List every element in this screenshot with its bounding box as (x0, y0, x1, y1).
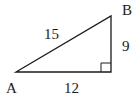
side-label-vertical: 9 (122, 38, 130, 54)
vertex-label-a: A (6, 80, 17, 96)
triangle-diagram: A B 15 9 12 (0, 0, 140, 99)
right-angle-marker (101, 63, 111, 72)
side-label-hypotenuse: 15 (44, 26, 59, 42)
vertex-label-b: B (122, 2, 132, 18)
triangle-shape (16, 16, 111, 72)
side-label-base: 12 (64, 80, 79, 96)
